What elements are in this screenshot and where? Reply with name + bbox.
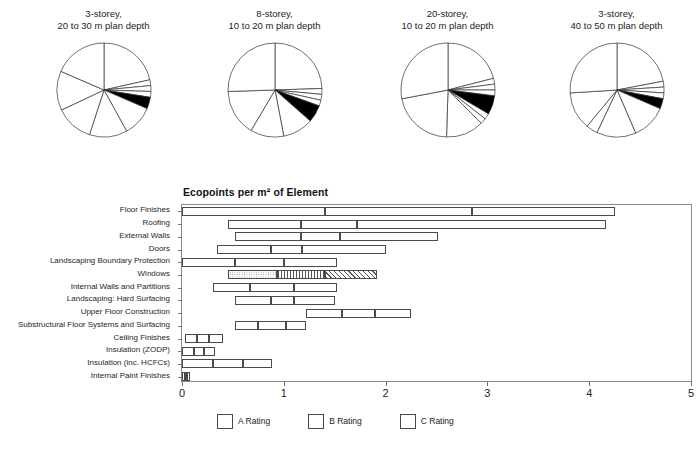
bar-segment [271, 296, 294, 305]
bar-row [182, 359, 272, 368]
x-axis-tick [182, 382, 183, 386]
y-axis-tick [178, 339, 182, 340]
bar-segment [294, 296, 335, 305]
pie-chart-title: 3-storey, 20 to 30 m plan depth [16, 0, 191, 32]
bar-segment [243, 359, 272, 368]
bar-row [213, 283, 337, 292]
bar-segment [325, 270, 378, 279]
x-axis-tick [487, 382, 488, 386]
category-label: External Walls [119, 231, 170, 241]
pie-chart-row: 3-storey, 20 to 30 m plan depth8-storey,… [0, 0, 699, 180]
pie-chart-title: 8-storey, 10 to 20 m plan depth [187, 0, 362, 32]
bar-segment [182, 207, 325, 216]
legend-swatch-ratingA [217, 414, 233, 429]
legend-swatch-ratingB [308, 414, 324, 429]
category-label: Substructural Floor Systems and Surfacin… [18, 320, 170, 330]
bar-segment [197, 334, 209, 343]
bar-segment [286, 321, 306, 330]
category-label: Insulation (ZODP) [106, 345, 170, 355]
x-axis-tick-label: 5 [688, 387, 694, 399]
bar-segment [302, 245, 385, 254]
pie-chart-1: 3-storey, 20 to 30 m plan depth [16, 0, 191, 180]
bar-segment [472, 207, 615, 216]
bar-chart-panel: Ecopoints per m² of Element Floor Finish… [0, 182, 699, 458]
category-label: Floor Finishes [120, 205, 170, 215]
x-axis-tick-label: 0 [179, 387, 185, 399]
pie-svg [393, 35, 503, 145]
bar-segment [306, 309, 342, 318]
pie-svg-wrapper [360, 35, 535, 145]
bar-segment [357, 220, 606, 229]
category-label: Insulation (inc. HCFCs) [87, 358, 170, 368]
bar-segment [342, 309, 376, 318]
y-axis-tick [178, 250, 182, 251]
bar-segment [375, 309, 411, 318]
bar-row [235, 321, 306, 330]
bar-segment [228, 220, 301, 229]
x-axis-tick [691, 382, 692, 386]
legend-item: B Rating [308, 414, 362, 429]
bar-row [306, 309, 411, 318]
plot-area [181, 204, 692, 382]
category-label: Landscaping: Hard Surfacing [67, 294, 170, 304]
y-axis-tick [178, 275, 182, 276]
pie-slice [569, 43, 616, 93]
bar-segment [235, 258, 284, 267]
bar-segment [209, 334, 222, 343]
bar-segment [235, 321, 258, 330]
bar-segment [213, 359, 244, 368]
bar-segment [187, 372, 190, 381]
category-label: Windows [138, 269, 170, 279]
bar-row [235, 232, 439, 241]
legend-swatch-ratingC [400, 414, 416, 429]
pie-chart-3: 20-storey, 10 to 20 m plan depth [360, 0, 535, 180]
pie-svg-wrapper [187, 35, 362, 145]
bar-row [182, 347, 215, 356]
pie-svg [49, 35, 159, 145]
pie-slice [400, 43, 447, 99]
category-label: Landscaping Boundary Protection [50, 256, 170, 266]
bar-segment [294, 283, 337, 292]
bar-row [182, 258, 337, 267]
bar-segment [258, 321, 285, 330]
pie-svg-wrapper [16, 35, 191, 145]
chart-title: Ecopoints per m² of Element [183, 186, 328, 198]
bar-segment [340, 232, 439, 241]
legend-label: A Rating [238, 416, 270, 426]
bar-row [185, 334, 223, 343]
legend-item: A Rating [217, 414, 270, 429]
pie-svg [562, 35, 672, 145]
bar-row [228, 220, 607, 229]
bar-segment [217, 245, 271, 254]
x-axis-tick [386, 382, 387, 386]
bar-segment [277, 270, 325, 279]
x-axis: 012345 [181, 382, 692, 404]
bar-segment [235, 296, 271, 305]
bar-row [228, 270, 378, 279]
bar-segment [301, 232, 340, 241]
y-axis-tick [178, 326, 182, 327]
pie-slice [275, 43, 322, 90]
bar-segment [185, 334, 197, 343]
pie-svg [220, 35, 330, 145]
pie-svg-wrapper [529, 35, 699, 145]
bar-segment [235, 232, 301, 241]
x-axis-tick-label: 4 [586, 387, 592, 399]
x-axis-tick-label: 1 [281, 387, 287, 399]
bar-segment [250, 283, 294, 292]
category-label: Ceiling Finishes [114, 333, 170, 343]
pie-chart-title: 20-storey, 10 to 20 m plan depth [360, 0, 535, 32]
bar-row [217, 245, 386, 254]
bar-segment [182, 359, 213, 368]
pie-chart-2: 8-storey, 10 to 20 m plan depth [187, 0, 362, 180]
pie-chart-4: 3-storey, 40 to 50 m plan depth [529, 0, 699, 180]
bar-segment [204, 347, 214, 356]
bar-row [235, 296, 335, 305]
bar-row [182, 207, 615, 216]
pie-slice [227, 43, 274, 91]
legend-item: C Rating [400, 414, 454, 429]
x-axis-tick [589, 382, 590, 386]
x-axis-tick-label: 3 [484, 387, 490, 399]
pie-chart-title: 3-storey, 40 to 50 m plan depth [529, 0, 699, 32]
bar-row [182, 372, 190, 381]
